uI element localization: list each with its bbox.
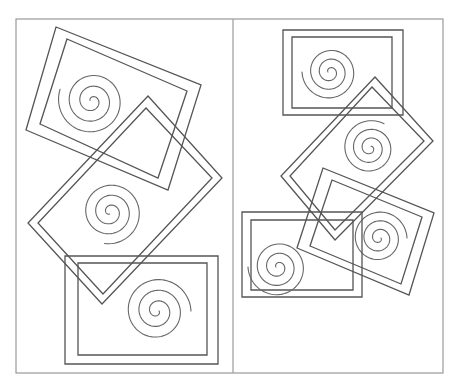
inner-border — [292, 37, 392, 108]
right-panel — [242, 30, 434, 297]
left-bottom-upright-frame — [65, 256, 218, 364]
inner-border — [78, 263, 207, 355]
diagram-canvas — [0, 0, 460, 388]
outer-border — [297, 168, 434, 295]
inner-border — [251, 220, 353, 290]
outer-border — [281, 77, 433, 240]
left-middle-diamond-frame — [28, 96, 222, 304]
inner-border — [310, 180, 422, 284]
outer-border — [283, 30, 403, 115]
right-top-upright-frame — [283, 30, 403, 115]
outer-border — [28, 96, 222, 304]
spiral-icon — [248, 244, 303, 295]
inner-border — [40, 39, 187, 178]
outer-border — [26, 27, 201, 190]
spiral-frames-diagram — [0, 0, 460, 388]
spiral-icon — [302, 50, 354, 97]
spiral-icon — [345, 121, 391, 171]
spiral-icon — [59, 76, 121, 132]
spiral-icon — [355, 212, 407, 259]
left-top-tilted-frame — [26, 27, 201, 190]
right-middle-diamond-frame — [281, 77, 433, 240]
outer-border — [65, 256, 218, 364]
right-lower-tilted-frame — [297, 168, 434, 295]
left-panel — [26, 27, 222, 364]
spiral-icon — [128, 280, 191, 337]
spiral-icon — [86, 185, 140, 244]
right-bottom-upright-frame — [242, 212, 362, 297]
